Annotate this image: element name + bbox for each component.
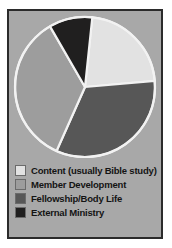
legend-label-external-ministry: External Ministry: [31, 207, 104, 218]
pie-slice-0[interactable]: [85, 17, 155, 87]
legend-label-fellowship: Fellowship/Body Life: [31, 193, 122, 204]
legend-item-content[interactable]: Content (usually Bible study): [15, 163, 161, 177]
legend-item-external-ministry[interactable]: External Ministry: [15, 205, 161, 219]
legend-swatch-content: [15, 165, 26, 176]
chart-legend: Content (usually Bible study) Member Dev…: [15, 163, 161, 219]
legend-swatch-member-development: [15, 179, 26, 190]
legend-label-member-development: Member Development: [31, 179, 126, 190]
pie-chart-area: [9, 11, 161, 163]
legend-swatch-external-ministry: [15, 207, 26, 218]
legend-swatch-fellowship: [15, 193, 26, 204]
chart-figure: Content (usually Bible study) Member Dev…: [7, 9, 163, 239]
pie-chart-svg: [9, 11, 161, 163]
legend-label-content: Content (usually Bible study): [31, 165, 157, 176]
legend-item-member-development[interactable]: Member Development: [15, 177, 161, 191]
legend-item-fellowship[interactable]: Fellowship/Body Life: [15, 191, 161, 205]
